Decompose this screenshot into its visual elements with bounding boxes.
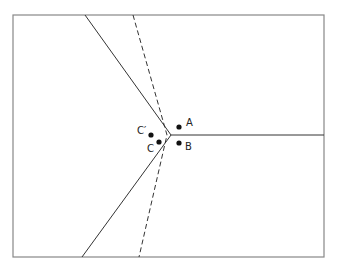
solid-boundary-lines: [82, 15, 324, 257]
upper-left-boundary-line: [85, 15, 171, 135]
point-label: C′: [137, 125, 147, 136]
diagram-frame: [13, 15, 324, 257]
point-b: B: [176, 140, 192, 152]
diagram-canvas: ABCC′: [0, 0, 337, 270]
point-dot: [176, 140, 181, 145]
lower-left-boundary-line: [82, 135, 171, 257]
point-a: A: [176, 117, 193, 130]
point-dot: [148, 132, 153, 137]
point-label: B: [185, 141, 192, 152]
point-dot: [176, 124, 181, 129]
point-c: C: [147, 139, 162, 154]
point-cprime: C′: [137, 125, 154, 138]
point-label: A: [186, 117, 193, 128]
point-dot: [156, 139, 161, 144]
point-label: C: [147, 143, 154, 154]
